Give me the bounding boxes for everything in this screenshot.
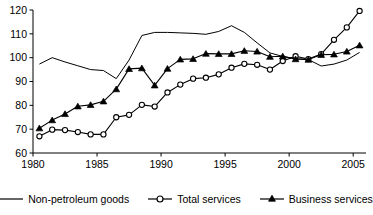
legend-open-circle-swatch-icon [147, 193, 173, 205]
data-point-marker [126, 112, 131, 117]
data-point-marker [37, 134, 42, 139]
data-point-marker [242, 61, 247, 66]
data-point-marker [191, 76, 196, 81]
x-axis-tick-label: 2000 [277, 158, 301, 170]
data-point-marker [36, 125, 43, 131]
x-axis-tick-labels: 198019851990199520002005 [21, 158, 365, 170]
data-point-marker [344, 25, 349, 30]
data-point-marker [229, 65, 234, 70]
x-axis-tick-label: 1980 [21, 158, 45, 170]
data-series-group [36, 8, 363, 139]
chart-legend: Non-petroleum goods Total services Busin… [0, 186, 371, 212]
legend-label-total-services: Total services [177, 193, 241, 205]
y-axis-tick-label: 90 [15, 75, 27, 87]
data-point-marker [50, 127, 55, 132]
data-point-marker [178, 82, 183, 87]
x-axis-tick-label: 1985 [85, 158, 109, 170]
x-axis-ticks [33, 153, 353, 157]
y-axis-tick-label: 70 [15, 123, 27, 135]
y-axis-tick-label: 100 [9, 51, 27, 63]
data-point-marker [331, 37, 336, 42]
data-point-marker [267, 67, 272, 72]
data-series-business-services [36, 42, 363, 131]
data-point-marker [216, 72, 221, 77]
y-axis-tick-label: 60 [15, 147, 27, 159]
data-point-marker [113, 86, 120, 92]
y-axis-tick-labels: 60708090100110120 [9, 4, 27, 159]
x-axis-tick-label: 1990 [149, 158, 173, 170]
data-point-marker [343, 48, 350, 54]
legend-line-swatch-icon [0, 193, 24, 205]
data-series-total-services [37, 8, 362, 139]
legend-item-business-services[interactable]: Business services [259, 193, 373, 205]
y-axis-tick-label: 80 [15, 99, 27, 111]
data-series-non-petroleum-goods [39, 26, 359, 79]
y-axis-ticks [30, 10, 34, 153]
axis-group: 60708090100110120 1980198519901995200020… [9, 4, 366, 170]
data-point-marker [165, 90, 170, 95]
legend-label-business-services: Business services [289, 193, 373, 205]
data-point-marker [49, 117, 56, 123]
legend-filled-triangle-swatch-icon [259, 193, 285, 205]
data-point-marker [62, 128, 67, 133]
x-axis-tick-label: 2005 [342, 158, 366, 170]
data-point-marker [255, 62, 260, 67]
data-point-marker [203, 75, 208, 80]
legend-item-total-services[interactable]: Total services [147, 193, 241, 205]
data-point-marker [152, 104, 157, 109]
data-point-marker [114, 115, 119, 120]
data-point-marker [101, 132, 106, 137]
x-axis-tick-label: 1995 [213, 158, 237, 170]
data-point-marker [88, 132, 93, 137]
data-point-marker [75, 129, 80, 134]
data-point-marker [139, 102, 144, 107]
y-axis-tick-label: 120 [9, 4, 27, 16]
data-point-marker [357, 8, 362, 13]
data-point-marker [62, 111, 69, 117]
legend-item-non-petroleum-goods[interactable]: Non-petroleum goods [0, 193, 129, 205]
data-point-marker [356, 42, 363, 48]
y-axis-tick-label: 110 [10, 28, 27, 40]
legend-label-non-petroleum-goods: Non-petroleum goods [28, 193, 129, 205]
